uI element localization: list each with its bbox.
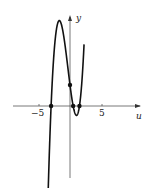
y-axis-arrow-icon [68,15,72,21]
x-tick-label-neg5: −5 [31,109,44,118]
chart-plot [0,0,149,188]
data-point [68,83,72,87]
marked-points [49,83,82,108]
data-point [71,104,75,108]
data-point [77,104,81,108]
data-point [49,104,53,108]
x-axis-label: u [136,112,142,121]
x-tick-label-pos5: 5 [99,109,105,118]
x-axis-arrow-icon [135,104,141,108]
axes [13,17,140,178]
y-axis-label: y [76,14,81,23]
